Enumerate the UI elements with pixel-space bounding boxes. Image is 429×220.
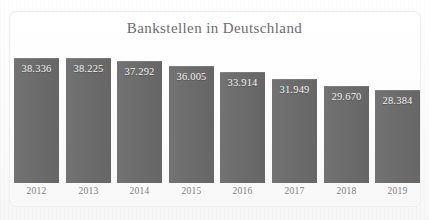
bar[interactable]: 31.949: [272, 79, 317, 183]
x-tick-2018: 2018: [324, 186, 369, 196]
bar-value-label: 37.292: [117, 66, 162, 77]
x-tick-2016: 2016: [220, 186, 265, 196]
bar[interactable]: 37.292: [117, 61, 162, 183]
bar[interactable]: 38.225: [66, 58, 111, 183]
chart-screenshot: Bankstellen in Deutschland 38.33638.2253…: [0, 0, 429, 220]
bar-value-label: 29.670: [324, 91, 369, 102]
bar-value-label: 38.336: [14, 63, 59, 74]
chart-title: Bankstellen in Deutschland: [0, 20, 429, 37]
x-tick-2014: 2014: [117, 186, 162, 196]
plot-area: 38.33638.22537.29236.00533.91431.94929.6…: [14, 46, 414, 183]
x-tick-2013: 2013: [66, 186, 111, 196]
bar[interactable]: 28.384: [375, 90, 420, 183]
x-axis-tick-labels: 20122013201420152016201720182019: [14, 186, 414, 202]
bar[interactable]: 33.914: [220, 72, 265, 183]
bar-value-label: 38.225: [66, 63, 111, 74]
bar-value-label: 36.005: [169, 71, 214, 82]
bar-value-label: 28.384: [375, 95, 420, 106]
x-tick-2015: 2015: [169, 186, 214, 196]
bar-value-label: 33.914: [220, 77, 265, 88]
bar[interactable]: 38.336: [14, 58, 59, 183]
bar[interactable]: 29.670: [324, 86, 369, 183]
x-tick-2012: 2012: [14, 186, 59, 196]
x-tick-2017: 2017: [272, 186, 317, 196]
bar-value-label: 31.949: [272, 84, 317, 95]
bar[interactable]: 36.005: [169, 66, 214, 183]
x-tick-2019: 2019: [375, 186, 420, 196]
